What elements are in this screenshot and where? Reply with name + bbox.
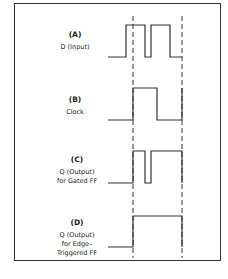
waveform-c-gated-ff — [108, 151, 182, 183]
waveform-d-edge-triggered-ff — [108, 216, 182, 247]
waveform-b-clock — [108, 88, 182, 120]
waveforms — [0, 0, 228, 279]
waveform-a-d-input — [108, 25, 182, 57]
